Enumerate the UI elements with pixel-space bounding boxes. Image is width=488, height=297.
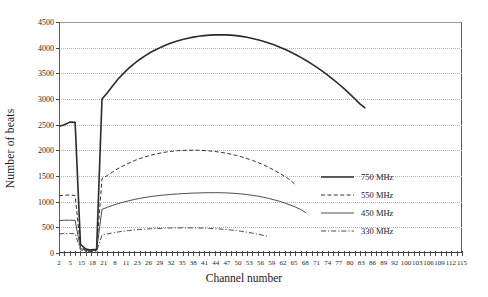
y-tick-label: 2000	[38, 146, 59, 155]
x-tick-label: 65	[291, 259, 298, 267]
x-tick-label: 92	[391, 259, 398, 267]
legend-label: 550 MHz	[361, 191, 393, 200]
x-axis-title: Channel number	[0, 272, 488, 284]
x-tick-label: 59	[268, 259, 275, 267]
legend-label: 330 MHz	[361, 227, 393, 236]
x-tick-label: 8	[113, 259, 117, 267]
series-line-3	[59, 228, 269, 252]
y-tick-label: 1500	[38, 172, 59, 181]
x-tick-label: 53	[246, 259, 253, 267]
x-tick-label: 86	[369, 259, 376, 267]
x-tick-label: 80	[347, 259, 354, 267]
x-tick-label: 89	[380, 259, 387, 267]
x-tick-label: 83	[358, 259, 365, 267]
x-tick-label: 23	[134, 259, 141, 267]
plot-area: 050010001500200025003000350040004500 251…	[59, 22, 462, 253]
x-tick-label: 26	[145, 259, 152, 267]
chart-legend: 750 MHz550 MHz450 MHz330 MHz	[321, 168, 393, 240]
y-tick-label: 2500	[38, 120, 59, 129]
x-tick-label: 35	[179, 259, 186, 267]
legend-swatch-icon	[321, 190, 354, 200]
legend-item[interactable]: 750 MHz	[321, 168, 393, 186]
series-line-0	[59, 35, 365, 250]
x-tick-label: 29	[156, 259, 163, 267]
x-tick-label: 18	[89, 259, 96, 267]
y-axis-title: Number of beats	[0, 0, 20, 297]
y-tick-label: 0	[50, 249, 59, 258]
x-tick-label: 112	[446, 259, 456, 267]
x-tick-label: 38	[190, 259, 197, 267]
x-tick-label: 41	[201, 259, 208, 267]
x-tick-label: 5	[68, 259, 72, 267]
x-tick-label: 11	[123, 259, 130, 267]
y-tick-label: 1000	[38, 197, 59, 206]
y-tick-label: 4000	[38, 43, 59, 52]
y-tick-label: 3000	[38, 95, 59, 104]
x-tick-label: 100	[401, 259, 412, 267]
legend-swatch-icon	[321, 226, 354, 236]
legend-swatch-icon	[321, 172, 354, 182]
y-tick-label: 3500	[38, 69, 59, 78]
x-tick-label: 68	[302, 259, 309, 267]
x-tick-label: 62	[279, 259, 286, 267]
y-tick-label: 4500	[38, 18, 59, 27]
series-line-1	[59, 150, 295, 250]
x-tick-mark	[462, 251, 463, 256]
y-tick-label: 500	[42, 223, 59, 232]
chart-figure: Number of beats 050010001500200025003000…	[0, 0, 488, 297]
legend-item[interactable]: 550 MHz	[321, 186, 393, 204]
legend-label: 750 MHz	[361, 173, 393, 182]
x-tick-label: 103	[412, 259, 423, 267]
x-tick-label: 74	[324, 259, 331, 267]
x-tick-label: 77	[335, 259, 342, 267]
x-tick-label: 115	[457, 259, 467, 267]
x-tick-label: 32	[167, 259, 174, 267]
data-curves	[59, 22, 462, 253]
x-tick-label: 109	[434, 259, 445, 267]
x-tick-label: 2	[57, 259, 61, 267]
x-tick-label: 50	[235, 259, 242, 267]
x-tick-label: 56	[257, 259, 264, 267]
legend-item[interactable]: 330 MHz	[321, 222, 393, 240]
legend-swatch-icon	[321, 208, 354, 218]
x-tick-label: 71	[313, 259, 320, 267]
x-tick-label: 44	[212, 259, 219, 267]
x-tick-label: 21	[100, 259, 107, 267]
x-tick-label: 15	[78, 259, 85, 267]
x-tick-label: 106	[423, 259, 434, 267]
legend-label: 450 MHz	[361, 209, 393, 218]
x-tick-label: 47	[223, 259, 230, 267]
legend-item[interactable]: 450 MHz	[321, 204, 393, 222]
